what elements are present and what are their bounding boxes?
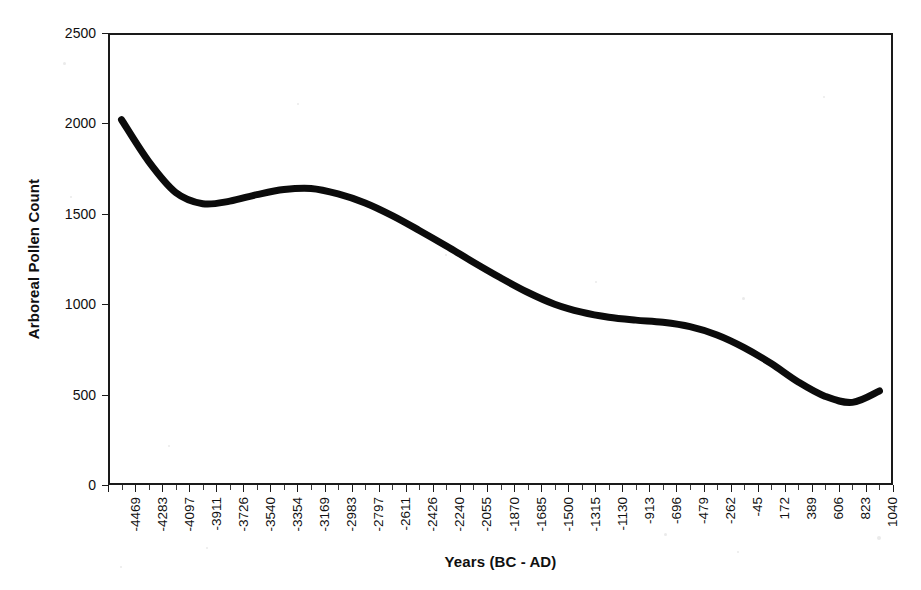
x-axis-minor-tick-mark bbox=[473, 485, 474, 490]
x-axis-tick-mark bbox=[622, 485, 623, 492]
x-axis-minor-tick-mark bbox=[284, 485, 285, 490]
x-axis-minor-tick-mark bbox=[798, 485, 799, 490]
x-axis-tick-mark bbox=[487, 485, 488, 492]
x-axis-title: Years (BC - AD) bbox=[108, 553, 893, 570]
scan-artifact bbox=[168, 445, 170, 447]
x-axis-tick-mark bbox=[704, 485, 705, 492]
y-axis-tick-label: 0 bbox=[0, 477, 96, 493]
y-axis-tick-label: 2500 bbox=[0, 25, 96, 41]
x-axis-tick-mark bbox=[406, 485, 407, 492]
y-axis-tick-labels: 05001000150020002500 bbox=[0, 0, 100, 590]
scan-artifact bbox=[206, 547, 208, 549]
x-axis-minor-tick-mark bbox=[176, 485, 177, 490]
scan-artifact bbox=[823, 96, 825, 98]
scan-artifact bbox=[595, 281, 597, 283]
scan-artifact bbox=[737, 551, 739, 553]
x-axis-tick-mark bbox=[676, 485, 677, 492]
x-axis-minor-tick-mark bbox=[338, 485, 339, 490]
x-axis-minor-tick-mark bbox=[717, 485, 718, 490]
scan-artifact bbox=[540, 560, 542, 562]
x-axis-tick-mark bbox=[785, 485, 786, 492]
x-axis-minor-tick-mark bbox=[582, 485, 583, 490]
pollen-count-chart-figure: Arboreal Pollen Count 050010001500200025… bbox=[0, 0, 921, 590]
x-axis-minor-tick-mark bbox=[257, 485, 258, 490]
x-axis-minor-tick-mark bbox=[122, 485, 123, 490]
x-axis-minor-tick-mark bbox=[609, 485, 610, 490]
x-axis-minor-tick-mark bbox=[501, 485, 502, 490]
x-axis-minor-tick-mark bbox=[365, 485, 366, 490]
x-axis-tick-mark bbox=[758, 485, 759, 492]
x-axis-minor-tick-mark bbox=[879, 485, 880, 490]
y-axis-tick-label: 500 bbox=[0, 387, 96, 403]
x-axis-tick-mark bbox=[135, 485, 136, 492]
scan-artifact bbox=[297, 103, 299, 105]
x-axis-tick-mark bbox=[352, 485, 353, 492]
x-axis-tick-mark bbox=[108, 485, 109, 492]
x-axis-tick-mark bbox=[216, 485, 217, 492]
x-axis-minor-tick-mark bbox=[528, 485, 529, 490]
x-axis-tick-mark bbox=[325, 485, 326, 492]
x-axis-tick-mark bbox=[514, 485, 515, 492]
x-axis-tick-mark bbox=[243, 485, 244, 492]
x-axis-tick-mark bbox=[893, 485, 894, 492]
scan-artifact bbox=[120, 566, 122, 568]
x-axis-tick-mark bbox=[162, 485, 163, 492]
x-axis-tick-mark bbox=[433, 485, 434, 492]
scan-artifact bbox=[742, 297, 745, 300]
x-axis-minor-tick-mark bbox=[230, 485, 231, 490]
x-axis-minor-tick-mark bbox=[203, 485, 204, 490]
x-axis-tick-mark bbox=[189, 485, 190, 492]
x-axis-minor-tick-mark bbox=[555, 485, 556, 490]
x-axis-tick-mark bbox=[460, 485, 461, 492]
scan-artifact bbox=[378, 514, 380, 516]
x-axis-tick-mark bbox=[541, 485, 542, 492]
x-axis-minor-tick-mark bbox=[825, 485, 826, 490]
scan-artifact bbox=[70, 196, 72, 198]
x-axis-tick-mark bbox=[595, 485, 596, 492]
x-axis-minor-tick-mark bbox=[446, 485, 447, 490]
y-axis-tick-label: 1000 bbox=[0, 296, 96, 312]
x-axis-minor-tick-mark bbox=[419, 485, 420, 490]
x-axis-tick-mark bbox=[731, 485, 732, 492]
x-axis-tick-mark bbox=[568, 485, 569, 492]
x-axis-minor-tick-mark bbox=[311, 485, 312, 490]
x-axis-tick-mark bbox=[649, 485, 650, 492]
pollen-count-curve-path bbox=[122, 120, 880, 403]
x-axis-tick-mark bbox=[812, 485, 813, 492]
x-axis-minor-tick-mark bbox=[690, 485, 691, 490]
scan-artifact bbox=[63, 62, 66, 65]
x-axis-tick-mark bbox=[379, 485, 380, 492]
x-axis-minor-tick-mark bbox=[663, 485, 664, 490]
x-axis-minor-tick-mark bbox=[636, 485, 637, 490]
scan-artifact bbox=[664, 533, 667, 536]
y-axis-tick-label: 2000 bbox=[0, 115, 96, 131]
x-axis-tick-mark bbox=[866, 485, 867, 492]
x-axis-minor-tick-mark bbox=[149, 485, 150, 490]
x-axis-tick-mark bbox=[839, 485, 840, 492]
x-axis-minor-tick-mark bbox=[771, 485, 772, 490]
scan-artifact bbox=[877, 536, 881, 540]
y-axis-tick-label: 1500 bbox=[0, 206, 96, 222]
x-axis-tick-mark bbox=[270, 485, 271, 492]
x-axis-minor-tick-mark bbox=[392, 485, 393, 490]
x-axis-minor-tick-mark bbox=[852, 485, 853, 490]
pollen-count-line-series bbox=[108, 33, 893, 485]
x-axis-tick-mark bbox=[297, 485, 298, 492]
scan-artifact bbox=[445, 254, 447, 256]
x-axis-minor-tick-mark bbox=[744, 485, 745, 490]
